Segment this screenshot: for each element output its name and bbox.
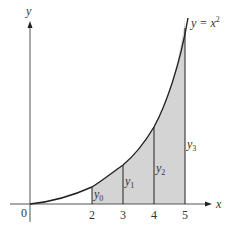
x-tick-4: 4: [151, 208, 157, 222]
ordinate-label-y0-sub: 0: [99, 194, 103, 203]
curve-equation-exponent: 2: [216, 15, 220, 24]
y-axis-label: y: [25, 4, 32, 18]
curve-equation-label: y = x2: [190, 15, 220, 30]
ordinate-label-y3: y3: [186, 137, 196, 153]
curve-equation-base: y = x: [190, 16, 216, 30]
y-axis-arrow-icon: [28, 21, 33, 28]
origin-label: 0: [21, 206, 27, 220]
diagram-canvas: y x 0 2 3 4 5 y0 y1 y2 y3 y = x2: [0, 0, 230, 235]
x-tick-3: 3: [120, 208, 126, 222]
ordinate-label-y3-sub: 3: [192, 144, 196, 153]
ordinate-label-y1-sub: 1: [130, 181, 134, 190]
x-axis-label: x: [215, 197, 222, 211]
x-tick-5: 5: [182, 208, 188, 222]
x-tick-2: 2: [89, 208, 95, 222]
shaded-region: [92, 20, 185, 204]
ordinate-label-y2-sub: 2: [161, 168, 165, 177]
x-axis-arrow-icon: [205, 202, 212, 207]
